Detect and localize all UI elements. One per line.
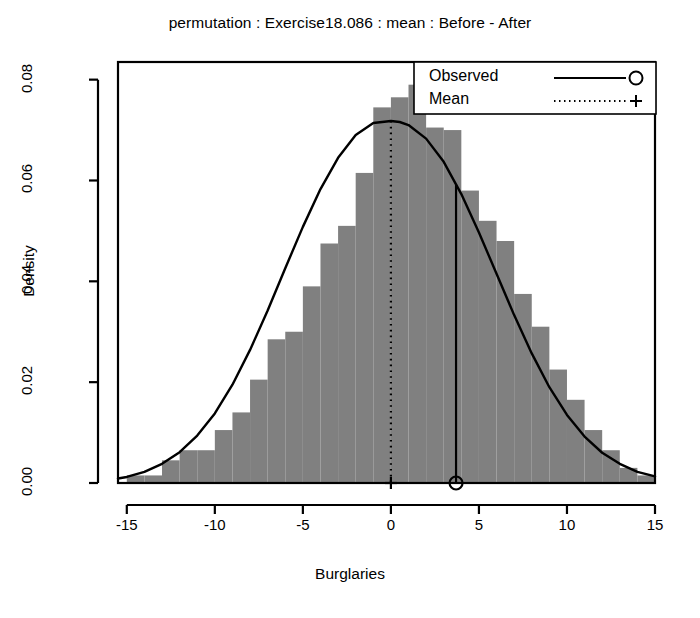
histogram-bar	[373, 107, 391, 483]
histogram-bar	[162, 460, 180, 483]
x-tick-label: 0	[361, 516, 421, 533]
histogram-bar	[215, 430, 233, 483]
histogram-bar	[180, 450, 198, 483]
histogram-bar	[549, 370, 567, 483]
histogram-bar	[356, 173, 374, 483]
histogram-bar	[479, 221, 497, 483]
chart-title: permutation : Exercise18.086 : mean : Be…	[0, 14, 700, 32]
x-tick-label: -15	[97, 516, 157, 533]
histogram-bar	[285, 332, 303, 483]
histogram-bar	[409, 85, 427, 483]
histogram-bar	[444, 130, 462, 483]
y-tick-label: 0.08	[18, 43, 35, 113]
histogram-bar	[144, 475, 162, 483]
x-tick-label: -10	[185, 516, 245, 533]
x-tick-label: 10	[537, 516, 597, 533]
histogram-bar	[461, 191, 479, 483]
x-axis-label: Burglaries	[0, 565, 700, 583]
histogram-bar	[338, 226, 356, 483]
y-tick-label: 0.04	[18, 245, 35, 315]
histogram-bar	[567, 400, 585, 483]
x-tick-label: 5	[449, 516, 509, 533]
x-tick-label: -5	[273, 516, 333, 533]
legend-label-mean: Mean	[429, 90, 469, 108]
permutation-density-chart: permutation : Exercise18.086 : mean : Be…	[0, 0, 700, 618]
y-tick-label: 0.00	[18, 447, 35, 517]
y-tick-label: 0.06	[18, 144, 35, 214]
histogram-bar	[320, 244, 338, 483]
histogram-bar	[391, 97, 409, 483]
x-tick-label: 15	[625, 516, 685, 533]
histogram-bar	[197, 450, 215, 483]
legend-label-observed: Observed	[429, 67, 498, 85]
histogram-bar	[532, 327, 550, 483]
histogram-bar	[268, 339, 286, 483]
histogram-bar	[250, 380, 268, 483]
histogram-bar	[426, 128, 444, 483]
y-tick-label: 0.02	[18, 346, 35, 416]
histogram-bar	[232, 412, 250, 483]
histogram-bar	[303, 286, 321, 483]
